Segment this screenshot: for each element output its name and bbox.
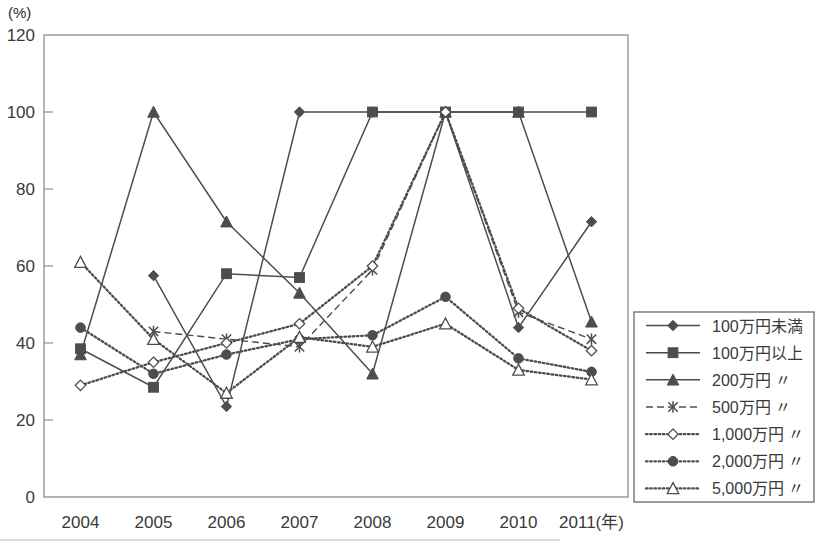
y-tick-label: 80 [16,180,35,199]
data-point-marker [148,357,158,367]
x-tick-label: 2009 [427,513,465,532]
data-point-marker [587,107,597,117]
legend-label: 1,000万円 〃 [712,426,804,443]
x-axis-ticks: 20042005200620072008200920102011(年) [62,513,624,532]
legend-marker-sample [668,456,678,466]
data-point-marker [222,350,232,360]
legend-label: 500万円 〃 [712,399,791,416]
data-point-marker [149,369,159,379]
data-point-marker [75,256,87,267]
data-point-marker [586,217,596,227]
x-tick-label: 2004 [62,513,100,532]
y-tick-label: 0 [26,488,35,507]
data-point-marker [148,106,160,117]
data-point-marker [587,333,596,344]
series-line [154,112,592,407]
data-series-layer [75,106,598,412]
data-point-marker [222,269,232,279]
data-point-marker [368,331,378,341]
y-tick-label: 20 [16,411,35,430]
data-point-marker [221,401,231,411]
data-point-marker [76,323,86,333]
data-point-marker [368,107,378,117]
series-line [81,112,592,387]
chart-page: (%) 020406080100120 20042005200620072008… [0,0,820,544]
y-tick-label: 120 [7,26,35,45]
plot-area-frame [44,35,628,497]
data-point-marker [221,216,233,227]
series-2 [76,107,597,392]
series-5 [75,107,596,391]
y-tick-label: 60 [16,257,35,276]
data-point-marker [513,322,523,332]
data-point-marker [586,346,596,356]
y-tick-label: 40 [16,334,35,353]
data-point-marker [294,107,304,117]
y-axis-ticks: 020406080100120 [7,26,53,507]
data-point-marker [440,318,452,329]
data-point-marker [441,292,451,302]
y-tick-label: 100 [7,103,35,122]
x-tick-label: 2007 [281,513,319,532]
legend-label: 100万円以上 [712,345,803,362]
data-point-marker [514,354,524,364]
data-point-marker [75,380,85,390]
x-tick-label: 2008 [354,513,392,532]
x-tick-label: 2005 [135,513,173,532]
data-point-marker [586,316,598,327]
data-point-marker [148,270,158,280]
legend-marker-sample [668,348,678,358]
legend-label: 100万円未満 [712,318,803,335]
legend-label: 2,000万円 〃 [712,453,804,470]
x-tick-label: 2010 [500,513,538,532]
data-point-marker [513,303,523,313]
legend-label: 5,000万円 〃 [712,480,804,497]
line-chart: 020406080100120 200420052006200720082009… [0,0,820,544]
legend-label: 200万円 〃 [712,372,791,389]
data-point-marker [149,382,159,392]
data-point-marker [295,273,305,283]
series-1 [148,107,596,412]
x-tick-label: 2011(年) [559,513,624,532]
x-tick-label: 2006 [208,513,246,532]
series-line [154,112,592,347]
